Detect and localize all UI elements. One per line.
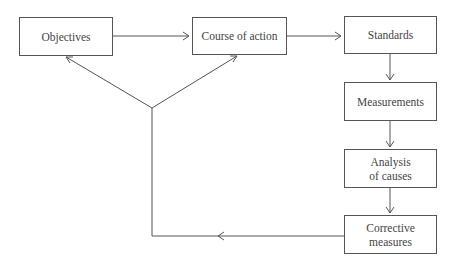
edge-junction-objectives [66,57,152,108]
node-label-line2: measures [369,235,412,249]
node-standards: Standards [344,16,437,54]
node-label: Objectives [41,30,90,44]
node-label: Measurements [357,95,424,109]
edge-junction-course [152,56,237,108]
node-label: Course of action [201,29,277,43]
node-label-line1: Analysis [370,155,410,169]
node-objectives: Objectives [19,17,113,56]
node-corrective-measures: Corrective measures [344,215,437,254]
arrowhead-icon [230,56,237,62]
node-label: Standards [368,28,413,42]
node-course-of-action: Course of action [192,17,287,55]
node-label-line2: of causes [369,169,411,183]
node-analysis-of-causes: Analysis of causes [344,149,437,188]
node-label-line1: Corrective [366,221,415,235]
node-measurements: Measurements [344,82,437,121]
